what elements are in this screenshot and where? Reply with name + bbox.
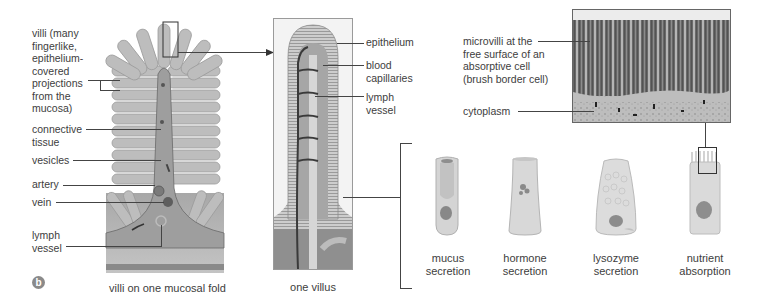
leader-lymph-vessel-fold-up (161, 225, 162, 247)
label-vesicles: vesicles (32, 154, 69, 167)
caption-nutrient-absorption: nutrient absorption (675, 252, 735, 278)
leader-epithelium (337, 43, 364, 44)
cell-hormone-secretion (507, 157, 543, 237)
label-blood-capillaries: blood capillaries (366, 59, 413, 84)
leader-vein (56, 202, 164, 203)
leader-vesicles (73, 160, 161, 161)
bracket-vertical (400, 143, 401, 289)
leader-villi-b (100, 90, 120, 91)
label-microvilli: microvilli at the free surface of an abs… (463, 35, 548, 85)
cell-lysozyme-secretion (594, 157, 638, 237)
panel-badge: b (32, 276, 45, 289)
villus-illustration (273, 18, 353, 270)
leader-connective-tissue (86, 129, 161, 130)
leader-cytoplasm (518, 111, 594, 112)
leader-lymph-vessel-fold (66, 246, 162, 247)
leader-epithelium-to-cells (343, 197, 401, 198)
label-artery: artery (32, 178, 59, 191)
label-connective-tissue: connective tissue (32, 123, 82, 148)
leader-villi-bracket (100, 80, 101, 90)
bracket-top (400, 143, 412, 144)
caption-hormone-secretion: hormone secretion (495, 252, 555, 278)
zoom-arrow-line (178, 52, 268, 53)
leader-blood-capillaries (323, 65, 364, 66)
label-lymph-vessel-fold: lymph vessel (32, 229, 62, 254)
cell-mucus-secretion (432, 155, 462, 237)
connector-micrograph-to-cell (705, 123, 706, 148)
label-epithelium: epithelium (366, 36, 414, 49)
caption-villus: one villus (273, 281, 353, 294)
leader-lymph-vessel-villus (315, 96, 364, 97)
caption-mucus-secretion: mucus secretion (418, 252, 478, 278)
leader-villi-a (100, 80, 120, 81)
caption-fold: villi on one mucosal fold (105, 282, 230, 295)
label-cytoplasm: cytoplasm (463, 105, 510, 118)
zoom-box-microvilli (698, 147, 717, 174)
microvilli-micrograph (572, 9, 731, 123)
label-villi: villi (many fingerlike, epithelium- cove… (32, 27, 83, 115)
caption-lysozyme-secretion: lysozyme secretion (586, 252, 646, 278)
label-lymph-vessel-villus: lymph vessel (366, 91, 396, 116)
leader-artery (63, 185, 155, 186)
label-vein: vein (32, 196, 51, 209)
mucosal-fold-illustration (100, 18, 230, 273)
bracket-bottom (400, 288, 412, 289)
leader-microvilli (538, 41, 590, 42)
leader-villi (88, 80, 100, 81)
